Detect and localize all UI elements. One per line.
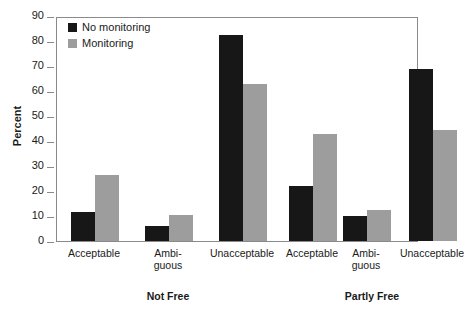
bar xyxy=(409,69,433,242)
y-axis-tick-mark xyxy=(47,17,54,18)
bar xyxy=(95,175,119,241)
y-axis-tick-label: 70 xyxy=(18,59,44,71)
y-axis-tick-mark xyxy=(47,42,54,43)
bar xyxy=(343,216,367,241)
bar xyxy=(243,84,267,242)
bar xyxy=(169,215,193,241)
legend-swatch-icon xyxy=(68,39,77,48)
y-axis-tick-label: 40 xyxy=(18,134,44,146)
y-axis-tick-mark xyxy=(47,92,54,93)
y-axis-tick-label: 50 xyxy=(18,109,44,121)
y-axis-tick-mark xyxy=(47,192,54,193)
y-axis-tick-label: 60 xyxy=(18,84,44,96)
y-axis-tick-label: 0 xyxy=(18,234,44,246)
y-axis-tick-mark xyxy=(47,167,54,168)
y-axis-tick-mark xyxy=(47,142,54,143)
legend-item: No monitoring xyxy=(68,20,150,34)
legend-item: Monitoring xyxy=(68,36,150,50)
legend-swatch-icon xyxy=(68,23,77,32)
legend-label: Monitoring xyxy=(82,37,133,49)
y-axis-tick-mark xyxy=(47,117,54,118)
y-axis-tick-label: 80 xyxy=(18,34,44,46)
chart-legend: No monitoringMonitoring xyxy=(68,20,150,50)
y-axis-tick-mark xyxy=(47,242,54,243)
x-axis-group-label: Not Free xyxy=(108,290,228,302)
y-axis-tick-label: 20 xyxy=(18,184,44,196)
y-axis-title: Percent xyxy=(11,91,23,161)
bar xyxy=(145,226,169,241)
y-axis-tick-label: 90 xyxy=(18,9,44,21)
plot-area xyxy=(56,17,418,242)
x-axis-group-label: Partly Free xyxy=(312,290,432,302)
bar xyxy=(433,130,457,241)
bar xyxy=(313,134,337,242)
y-axis-tick-label: 10 xyxy=(18,209,44,221)
bar xyxy=(289,186,313,241)
x-axis-category-label: Unacceptable xyxy=(387,248,469,260)
bar xyxy=(71,212,95,241)
legend-label: No monitoring xyxy=(82,21,150,33)
y-axis-tick-mark xyxy=(47,217,54,218)
bar xyxy=(367,210,391,241)
bar xyxy=(219,35,243,241)
y-axis-tick-mark xyxy=(47,67,54,68)
y-axis-tick-label: 30 xyxy=(18,159,44,171)
